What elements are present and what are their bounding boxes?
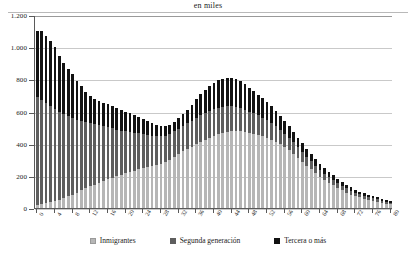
bar-segment	[107, 179, 110, 208]
x-axis-tick-mark	[195, 209, 196, 213]
x-axis-tick-mark	[54, 209, 55, 213]
bar-segment	[213, 109, 216, 136]
bar-segment	[257, 95, 260, 116]
bar-segment	[173, 122, 176, 132]
y-axis-tick-label: 800	[16, 76, 27, 84]
bar-segment	[230, 106, 233, 131]
bar-segment	[124, 173, 127, 208]
bar-segment	[385, 204, 388, 209]
bar	[275, 111, 278, 208]
bar-segment	[67, 116, 70, 196]
bar	[221, 79, 224, 208]
bar	[168, 125, 171, 208]
bar-segment	[213, 83, 216, 109]
bar-segment	[67, 69, 70, 116]
bar-segment	[62, 114, 65, 198]
x-axis-tick-label: 12	[91, 209, 99, 217]
bar-segment	[146, 167, 149, 208]
legend-label: Segunda generación	[180, 236, 241, 245]
bar	[235, 79, 238, 208]
bar-segment	[80, 190, 83, 208]
bar-segment	[283, 134, 286, 148]
bar-segment	[248, 88, 251, 112]
bar-segment	[102, 126, 105, 181]
bar	[354, 190, 357, 208]
bar	[67, 69, 70, 208]
bar-segment	[102, 103, 105, 126]
bar	[332, 175, 335, 208]
bar	[279, 116, 282, 208]
bar	[310, 154, 313, 208]
x-axis-tick-mark	[213, 209, 214, 213]
bar-segment	[98, 125, 101, 182]
x-axis-tick-label: 52	[268, 209, 276, 217]
bar-segment	[230, 131, 233, 208]
bar-segment	[186, 110, 189, 124]
bar-segment	[160, 126, 163, 137]
bar-segment	[257, 115, 260, 134]
bar-segment	[93, 124, 96, 184]
bar	[182, 114, 185, 208]
bar-segment	[208, 86, 211, 111]
bar-segment	[177, 154, 180, 208]
bar-segment	[182, 114, 185, 126]
bar-segment	[305, 157, 308, 166]
bar-segment	[173, 131, 176, 156]
legend-item-segunda[interactable]: Segunda generación	[170, 236, 241, 245]
bar	[217, 80, 220, 208]
bar-segment	[283, 121, 286, 134]
bar-segment	[164, 136, 167, 162]
x-axis-tick-label: 76	[374, 209, 382, 217]
legend-item-inmigrantes[interactable]: Inmigrantes	[90, 236, 136, 245]
bar-segment	[350, 195, 353, 209]
bar	[213, 83, 216, 208]
bar	[341, 182, 344, 208]
bar-segment	[49, 106, 52, 203]
legend-item-tercera[interactable]: Tercera o más	[274, 236, 326, 245]
bar-segment	[261, 98, 264, 117]
bar-segment	[124, 112, 127, 132]
bar-segment	[164, 162, 167, 208]
bar-segment	[76, 81, 79, 120]
bar	[146, 121, 149, 208]
y-axis-tick-label: 200	[16, 173, 27, 181]
bar-segment	[133, 115, 136, 133]
bar-segment	[354, 196, 357, 208]
bar-segment	[133, 133, 136, 171]
bar-segment	[195, 99, 198, 118]
x-axis-tick-label: 64	[321, 209, 329, 217]
bar-segment	[137, 169, 140, 208]
bar-segment	[115, 176, 118, 208]
bar-segment	[120, 110, 123, 131]
bar-segment	[279, 130, 282, 144]
bar-segment	[168, 160, 171, 208]
y-axis-tick-label: 600	[16, 109, 27, 117]
legend-swatch-icon	[170, 238, 176, 244]
x-axis-tick-label: 16	[109, 209, 117, 217]
bar-segment	[358, 197, 361, 208]
bar-segment	[239, 108, 242, 131]
bar-segment	[221, 79, 224, 107]
bar-segment	[319, 177, 322, 208]
bar-segment	[124, 131, 127, 173]
bar-segment	[310, 161, 313, 169]
x-axis-tick-label: 8	[74, 211, 81, 217]
y-axis: 02004006008001.0001.200	[0, 0, 34, 193]
bar-segment	[301, 143, 304, 152]
bar-segment	[270, 140, 273, 209]
bar-segment	[80, 86, 83, 121]
bar	[244, 84, 247, 208]
bar-segment	[151, 136, 154, 166]
bar	[191, 105, 194, 208]
bar-segment	[363, 199, 366, 208]
x-axis-tick-mark	[248, 209, 249, 213]
bar-segment	[292, 132, 295, 143]
y-axis-tick-label: 400	[16, 141, 27, 149]
bar-segment	[71, 195, 74, 209]
bar	[261, 98, 264, 208]
bar-segment	[266, 102, 269, 120]
bar-segment	[301, 152, 304, 162]
bar	[385, 200, 388, 208]
bar-segment	[275, 142, 278, 208]
bar-segment	[98, 183, 101, 208]
